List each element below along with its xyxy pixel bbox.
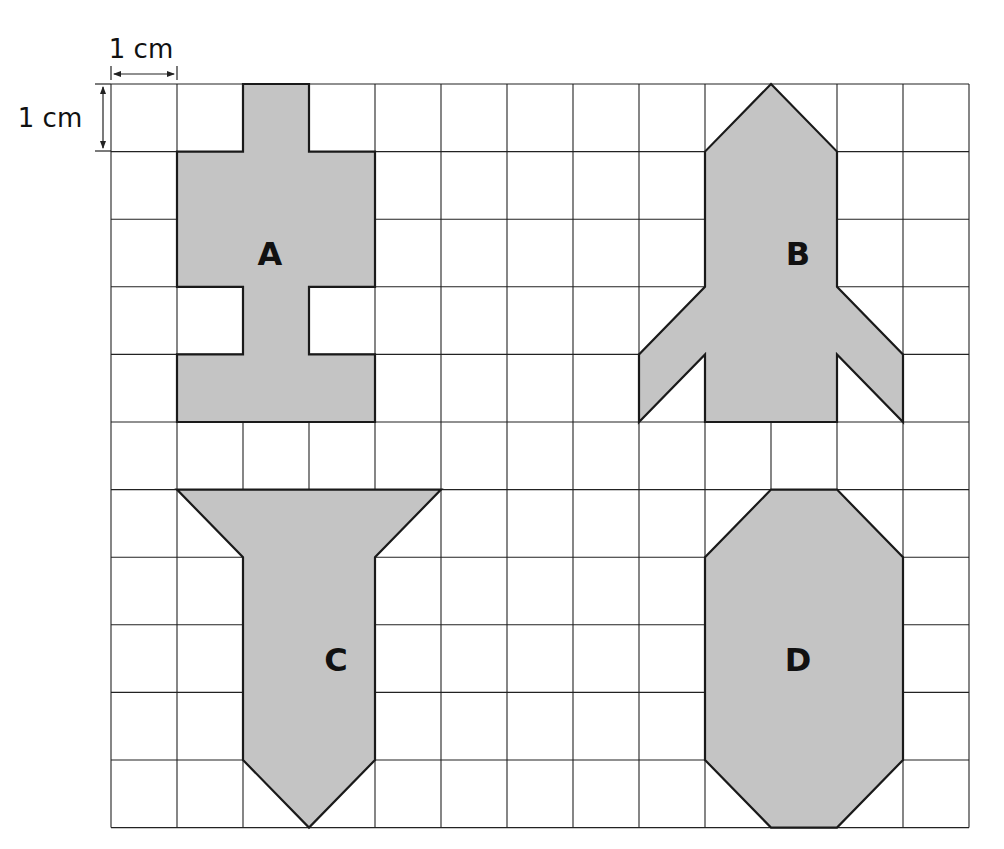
shapes-layer	[177, 84, 903, 828]
arrow-up-icon	[100, 86, 106, 94]
shape-c-label: C	[324, 641, 347, 679]
horizontal-scale-indicator: 1 cm	[109, 34, 177, 80]
shape-c-fill	[177, 490, 441, 828]
shape-b-label: B	[786, 235, 810, 273]
shape-a-label: A	[258, 235, 283, 273]
arrow-right-icon	[167, 71, 175, 77]
shape-d-label: D	[785, 641, 812, 679]
horizontal-scale-label: 1 cm	[109, 34, 173, 64]
vertical-scale-indicator: 1 cm	[18, 84, 111, 151]
shapes-grid-diagram: 1 cm 1 cm ABCD	[0, 0, 1004, 849]
vertical-scale-label: 1 cm	[18, 103, 82, 133]
shape-b-fill	[639, 84, 903, 422]
arrow-down-icon	[100, 141, 106, 149]
arrow-left-icon	[113, 71, 121, 77]
